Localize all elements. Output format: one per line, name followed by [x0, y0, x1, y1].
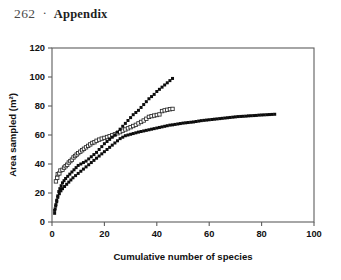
y-tick-label: 100: [29, 72, 45, 82]
data-point: [121, 136, 124, 139]
data-point: [95, 151, 98, 154]
data-point: [147, 97, 150, 100]
data-point: [56, 196, 59, 199]
data-point: [268, 113, 271, 116]
data-point: [58, 192, 61, 195]
x-tick-label: 100: [306, 229, 322, 239]
data-point: [182, 122, 185, 125]
data-point: [111, 136, 114, 139]
data-point: [168, 124, 171, 127]
data-point: [134, 111, 137, 114]
data-point: [161, 125, 164, 128]
data-point: [145, 129, 148, 132]
data-point: [132, 113, 135, 116]
data-point: [137, 109, 140, 112]
x-tick-label: 60: [204, 229, 214, 239]
data-point: [85, 160, 88, 163]
data-point: [53, 209, 56, 212]
data-point: [179, 122, 182, 125]
data-point: [95, 157, 98, 160]
data-point: [108, 138, 111, 141]
data-point: [221, 117, 224, 120]
data-point: [155, 90, 158, 93]
data-point: [168, 79, 171, 82]
data-point: [223, 117, 226, 120]
data-point: [200, 119, 203, 122]
y-tick-label: 60: [35, 130, 45, 140]
data-point: [166, 124, 169, 127]
data-point: [129, 116, 132, 119]
data-point: [77, 164, 80, 167]
running-head: 262 · Appendix: [14, 6, 108, 22]
data-point: [108, 146, 111, 149]
data-point: [137, 131, 140, 134]
data-point: [265, 113, 268, 116]
y-tick-label: 40: [35, 159, 45, 169]
data-point: [98, 148, 101, 151]
data-point: [132, 132, 135, 135]
data-point: [103, 150, 106, 153]
data-point: [176, 122, 179, 125]
data-point: [55, 200, 58, 203]
data-point: [271, 113, 274, 116]
data-series-group: [53, 77, 276, 215]
data-point: [54, 205, 57, 208]
data-point: [147, 128, 150, 131]
data-point: [242, 115, 245, 118]
x-axis-ticks: 020406080100: [49, 222, 321, 239]
data-point: [210, 118, 213, 121]
y-tick-label: 120: [29, 43, 45, 53]
data-point: [82, 161, 85, 164]
data-point: [85, 165, 88, 168]
data-point: [158, 113, 161, 116]
data-point: [226, 116, 229, 119]
data-point: [150, 95, 153, 98]
data-point: [53, 212, 56, 215]
data-point: [247, 114, 250, 117]
data-point: [90, 161, 93, 164]
data-point: [163, 125, 166, 128]
y-tick-label: 20: [35, 188, 45, 198]
data-point: [158, 88, 161, 91]
separator-dot: ·: [42, 5, 46, 21]
data-point: [116, 139, 119, 142]
data-point: [202, 119, 205, 122]
data-point: [234, 115, 237, 118]
y-axis-title: Area sampled (m²): [7, 93, 18, 177]
data-point: [54, 180, 57, 183]
data-point: [153, 127, 156, 130]
data-point: [197, 120, 200, 123]
data-point: [103, 142, 106, 145]
data-point: [142, 129, 145, 132]
data-point: [126, 119, 129, 122]
x-tick-label: 0: [49, 229, 54, 239]
data-point: [161, 86, 164, 89]
data-point: [237, 115, 240, 118]
data-point: [252, 114, 255, 117]
data-point: [218, 117, 221, 120]
data-point: [250, 114, 253, 117]
data-point: [142, 103, 145, 106]
data-point: [106, 148, 109, 151]
data-point: [106, 140, 109, 143]
data-point: [92, 159, 95, 162]
data-point: [124, 122, 127, 125]
data-point: [79, 170, 82, 173]
data-point: [213, 118, 216, 121]
data-point: [208, 118, 211, 121]
data-point: [155, 127, 158, 130]
data-point: [113, 134, 116, 137]
data-point: [74, 174, 77, 177]
data-point: [124, 134, 127, 137]
y-axis-ticks: 020406080100120: [29, 43, 52, 227]
figure-species-accumulation: 020406080100 020406080100120 Cumulative …: [0, 28, 341, 280]
data-point: [158, 126, 161, 129]
data-point: [92, 153, 95, 156]
x-axis-title: Cumulative number of species: [113, 251, 252, 262]
data-point: [77, 172, 80, 175]
data-point: [195, 120, 198, 123]
data-point: [166, 81, 169, 84]
data-point: [171, 123, 174, 126]
data-point: [126, 134, 129, 137]
data-point: [171, 107, 174, 110]
